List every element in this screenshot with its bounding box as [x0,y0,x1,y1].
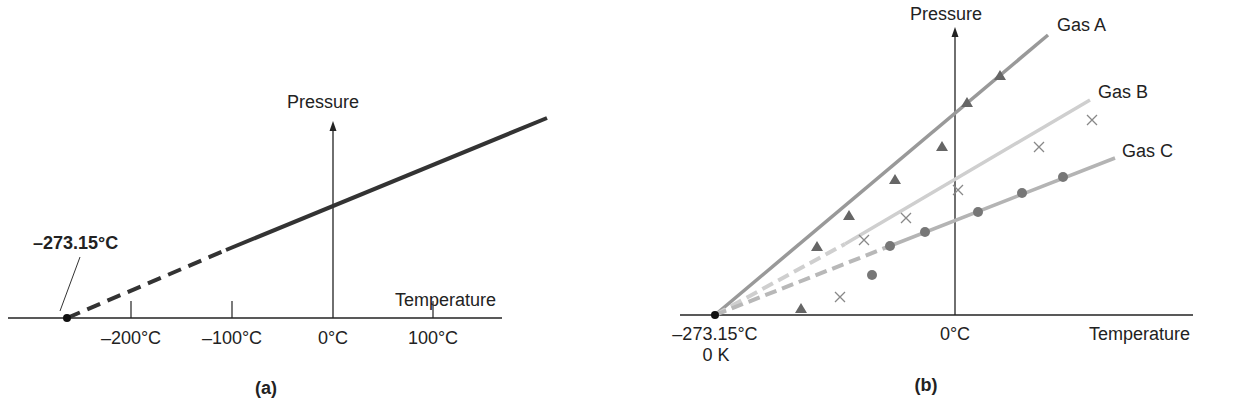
measured-line [226,118,547,250]
temperature-label: Temperature [395,290,496,310]
pressure-label: Pressure [910,4,982,24]
series-label-gas-a: Gas A [1057,15,1106,35]
pressure-label: Pressure [287,92,359,112]
tick-label: 100°C [408,328,458,348]
leader-line [60,257,80,311]
tick-label: –200°C [101,328,161,348]
gas-a-markers [795,70,1006,313]
panel-a: Pressure Temperature –273.15°C –200°C –1… [8,92,547,398]
absolute-zero-label: –273.15°C [33,233,118,253]
arrow-up-icon [952,27,959,37]
origin-label-celsius: –273.15°C [672,324,757,344]
series-label-gas-c: Gas C [1122,141,1173,161]
gas-b-extrapolated [715,244,845,315]
figure: Pressure Temperature –273.15°C –200°C –1… [0,0,1256,412]
caption: (b) [915,375,938,395]
gas-b-line [845,100,1090,244]
panel-b: Pressure Gas A Gas B Gas C –273.15°C 0 K… [672,4,1193,395]
absolute-zero-dot [63,314,71,322]
tick-label: –100°C [202,328,262,348]
caption: (a) [255,378,277,398]
gas-c-extrapolated [715,246,890,315]
extrapolated-line [67,250,226,318]
absolute-zero-dot [711,311,719,319]
arrow-up-icon [330,121,337,131]
temperature-label: Temperature [1089,324,1190,344]
origin-label-kelvin: 0 K [702,345,729,365]
zero-tick-label: 0°C [940,324,970,344]
series-label-gas-b: Gas B [1098,82,1148,102]
tick-label: 0°C [318,328,348,348]
